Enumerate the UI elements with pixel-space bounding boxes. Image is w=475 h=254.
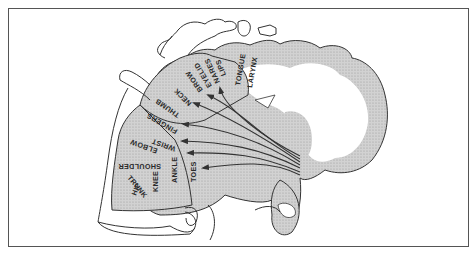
larynx-outline bbox=[258, 25, 276, 36]
label-shoulder: SHOULDER bbox=[118, 162, 161, 171]
genital-outline bbox=[208, 205, 214, 240]
tongue-outline bbox=[238, 20, 250, 36]
label-toes: TOES bbox=[189, 161, 198, 182]
label-knee: KNEE bbox=[151, 171, 160, 192]
homunculus-diagram: HIP TRUNK KNEE SHOULDER ANKLE TOES ELBOW… bbox=[0, 0, 475, 254]
label-ankle: ANKLE bbox=[170, 157, 179, 183]
leg-outline bbox=[98, 212, 196, 235]
face-outline bbox=[158, 36, 172, 58]
